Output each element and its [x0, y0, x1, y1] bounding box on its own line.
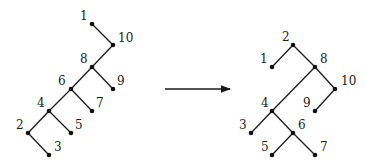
right-node-label: 6	[298, 118, 306, 132]
left-node-2	[26, 131, 31, 136]
left-node-label: 6	[58, 74, 66, 88]
right-node-8	[313, 65, 318, 70]
right-tree: 21810943657	[239, 30, 356, 157]
left-node-label: 3	[54, 140, 62, 154]
left-edge-8-6	[71, 67, 92, 89]
right-node-4	[270, 109, 275, 114]
right-node-5	[270, 153, 275, 158]
tree-diagram: 11089674523 21810943657	[0, 0, 366, 165]
left-node-label: 10	[118, 31, 133, 45]
right-edge-2-8	[293, 45, 315, 67]
right-node-label: 10	[341, 74, 356, 88]
left-tree: 11089674523	[16, 9, 133, 157]
right-edge-2-1	[272, 45, 293, 67]
left-edge-6-4	[49, 89, 71, 111]
right-node-label: 1	[260, 52, 268, 66]
left-node-3	[47, 153, 52, 158]
left-node-label: 9	[117, 74, 125, 88]
left-edge-1-10	[92, 24, 113, 45]
right-node-label: 3	[239, 118, 247, 132]
left-node-9	[111, 87, 116, 92]
left-edge-10-8	[92, 45, 113, 67]
right-node-label: 9	[303, 96, 311, 110]
right-node-10	[333, 87, 338, 92]
right-edge-4-3	[251, 111, 272, 133]
left-node-10	[111, 43, 116, 48]
left-edge-8-9	[92, 67, 113, 89]
right-node-label: 5	[261, 140, 269, 154]
right-node-label: 8	[320, 52, 328, 66]
right-node-9	[313, 109, 318, 114]
left-node-label: 7	[96, 96, 104, 110]
right-edge-6-5	[272, 133, 293, 155]
left-node-label: 1	[80, 9, 88, 23]
left-node-1	[90, 22, 95, 27]
right-node-label: 7	[320, 140, 328, 154]
left-node-7	[90, 109, 95, 114]
right-node-label: 4	[261, 96, 269, 110]
right-node-2	[291, 43, 296, 48]
right-edge-10-9	[315, 89, 335, 111]
right-node-7	[313, 153, 318, 158]
left-node-label: 8	[80, 52, 88, 66]
left-node-6	[69, 87, 74, 92]
left-node-4	[47, 109, 52, 114]
right-node-label: 2	[282, 30, 290, 44]
right-edge-4-6	[272, 111, 293, 133]
right-edge-6-7	[293, 133, 315, 155]
right-edge-8-10	[315, 67, 335, 89]
left-node-8	[90, 65, 95, 70]
left-node-label: 4	[37, 96, 45, 110]
left-node-label: 2	[16, 118, 24, 132]
left-edge-4-2	[28, 111, 49, 133]
left-edge-4-5	[49, 111, 71, 133]
right-node-6	[291, 131, 296, 136]
left-node-label: 5	[75, 118, 83, 132]
left-node-5	[69, 131, 74, 136]
right-node-3	[249, 131, 254, 136]
left-edge-6-7	[71, 89, 92, 111]
left-edge-2-3	[28, 133, 49, 155]
right-node-1	[270, 65, 275, 70]
